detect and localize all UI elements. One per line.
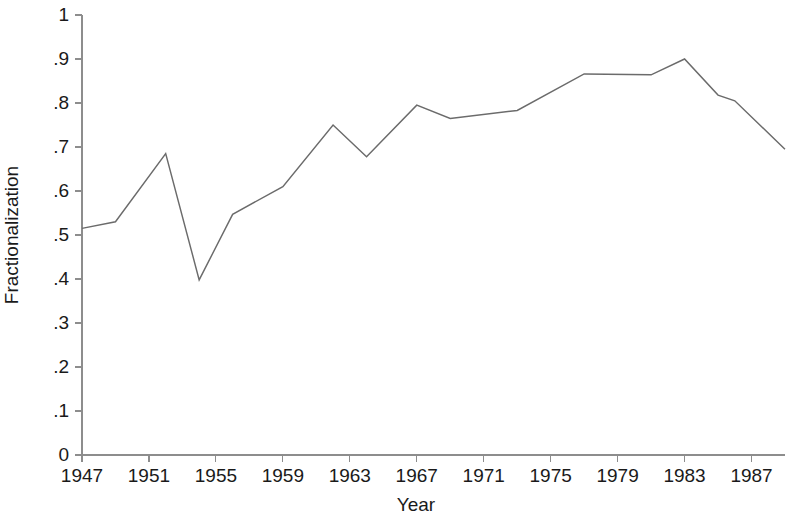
- x-tick-label: 1947: [61, 465, 103, 486]
- y-axis-tick-labels: 0.1.2.3.4.5.6.7.8.91: [53, 4, 69, 465]
- y-axis-title: Fractionalization: [1, 166, 22, 304]
- x-tick-label: 1979: [596, 465, 638, 486]
- x-tick-label: 1951: [128, 465, 170, 486]
- x-tick-label: 1955: [195, 465, 237, 486]
- x-tick-label: 1987: [730, 465, 772, 486]
- chart-figure: 0.1.2.3.4.5.6.7.8.91 1947195119551959196…: [0, 0, 795, 524]
- y-tick-label: .5: [53, 224, 69, 245]
- x-tick-label: 1975: [530, 465, 572, 486]
- y-tick-label: .6: [53, 180, 69, 201]
- y-tick-label: 0: [58, 444, 69, 465]
- y-tick-label: .1: [53, 400, 69, 421]
- x-tick-label: 1983: [663, 465, 705, 486]
- x-tick-label: 1963: [329, 465, 371, 486]
- fractionalization-line-chart: 0.1.2.3.4.5.6.7.8.91 1947195119551959196…: [0, 0, 795, 524]
- x-tick-label: 1967: [396, 465, 438, 486]
- x-axis-title: Year: [397, 494, 436, 515]
- y-tick-label: .8: [53, 92, 69, 113]
- data-series-line: [82, 59, 785, 280]
- x-axis-ticks: [82, 455, 752, 462]
- x-tick-label: 1971: [463, 465, 505, 486]
- y-tick-label: .9: [53, 48, 69, 69]
- y-tick-label: .2: [53, 356, 69, 377]
- y-tick-label: .3: [53, 312, 69, 333]
- plot-area: 0.1.2.3.4.5.6.7.8.91 1947195119551959196…: [53, 4, 785, 486]
- y-axis-ticks: [75, 15, 82, 455]
- y-tick-label: .7: [53, 136, 69, 157]
- y-tick-label: .4: [53, 268, 69, 289]
- y-tick-label: 1: [58, 4, 69, 25]
- x-tick-label: 1959: [262, 465, 304, 486]
- x-axis-tick-labels: 1947195119551959196319671971197519791983…: [61, 465, 773, 486]
